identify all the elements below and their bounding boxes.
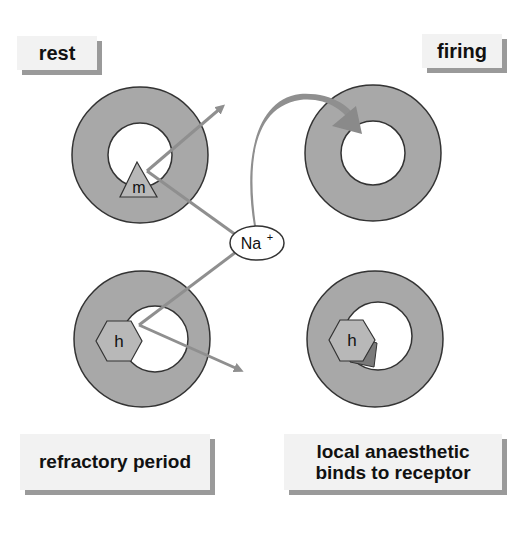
label-anaesthetic-line2: binds to receptor: [315, 462, 470, 483]
h-gate-label: h: [114, 332, 123, 351]
channel-refractory: [74, 271, 210, 407]
label-refractory-period: refractory period: [20, 434, 210, 490]
m-gate-label: m: [132, 179, 145, 196]
channel-firing: [305, 85, 441, 221]
label-rest-text: rest: [39, 42, 76, 64]
channel-rest: [72, 87, 208, 223]
label-firing-text: firing: [437, 40, 487, 62]
label-firing: firing: [422, 34, 502, 68]
label-anaesthetic-line1: local anaesthetic: [316, 441, 469, 462]
sodium-ion-symbol: Na: [241, 235, 262, 252]
label-local-anaesthetic: local anaesthetic binds to receptor: [284, 434, 502, 490]
label-refractory-text: refractory period: [39, 451, 191, 472]
sodium-ion-charge: +: [267, 231, 273, 243]
label-rest: rest: [17, 36, 97, 70]
sodium-ion: Na +: [230, 226, 284, 260]
h-gate-label: h: [347, 331, 356, 350]
